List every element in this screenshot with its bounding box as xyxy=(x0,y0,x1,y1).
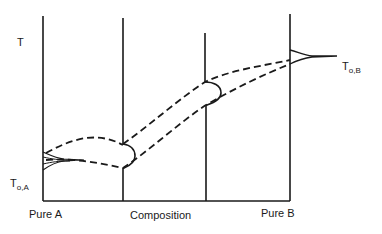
melting-point-b-main: T xyxy=(342,60,349,72)
melting-point-a-subscript: o,A xyxy=(17,183,29,192)
melting-peak-b xyxy=(290,50,337,64)
pure-a-label: Pure A xyxy=(29,208,62,220)
solidus-curve xyxy=(46,64,290,168)
temperature-axis-label: T xyxy=(17,36,24,48)
phase-diagram xyxy=(0,0,382,234)
cooling-path-1 xyxy=(123,18,135,201)
melting-point-a-main: T xyxy=(10,177,17,189)
liquidus-curve xyxy=(46,60,290,153)
pure-b-label: Pure B xyxy=(261,207,295,219)
composition-axis-label: Composition xyxy=(130,209,191,221)
cooling-path-2 xyxy=(205,33,221,201)
melting-point-b-label: To,B xyxy=(342,60,361,75)
melting-point-a-label: To,A xyxy=(10,177,29,192)
melting-point-b-subscript: o,B xyxy=(349,66,361,75)
